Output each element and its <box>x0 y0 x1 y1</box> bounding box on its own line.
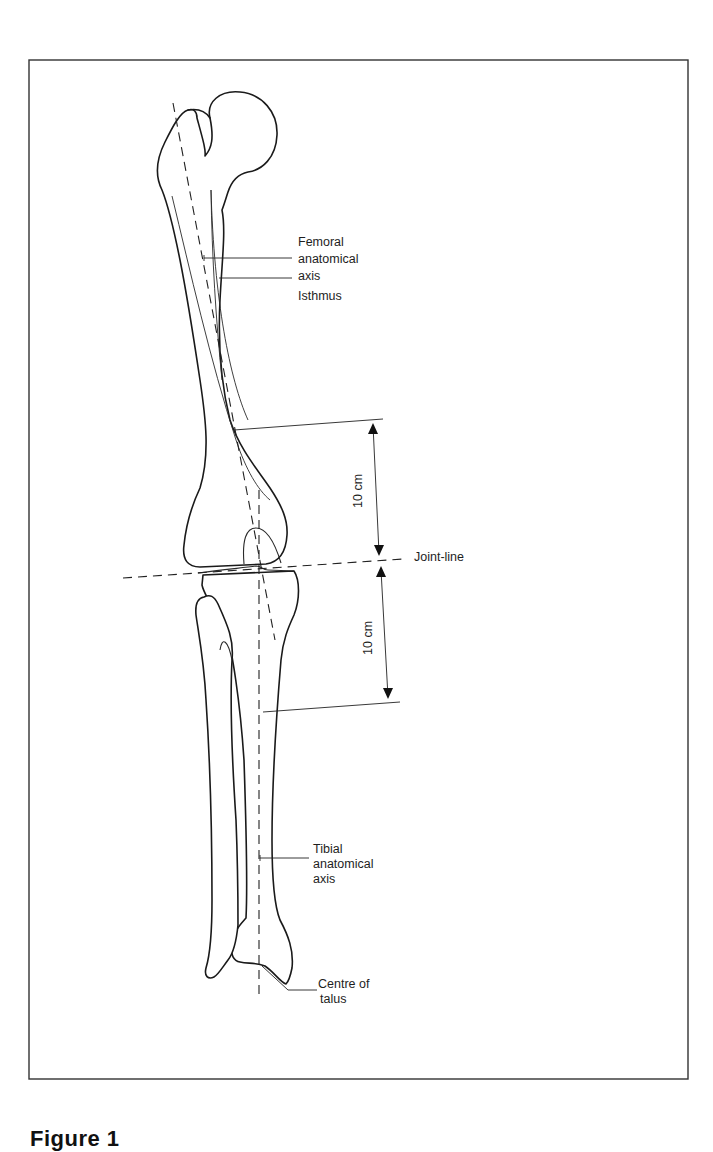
arrow-up-icon <box>368 423 378 434</box>
femoral-axis-label-1: Femoral <box>298 235 344 249</box>
femoral-axis-label-3: axis <box>298 269 320 283</box>
joint-line-label: Joint-line <box>414 550 464 564</box>
femoral-axis-label-2: anatomical <box>298 252 358 266</box>
talus-label-2: talus <box>320 992 346 1006</box>
arrow-up-icon <box>376 566 386 577</box>
tibial-axis-label-3: axis <box>313 872 335 886</box>
figure-caption: Figure 1 <box>30 1126 120 1152</box>
isthmus-label: Isthmus <box>298 289 342 303</box>
lower-dimension-line <box>381 570 388 697</box>
figure-frame <box>29 60 688 1079</box>
lower-distance-label: 10 cm <box>361 621 375 655</box>
upper-dimension-line <box>373 425 379 553</box>
tibial-axis-label-2: anatomical <box>313 857 373 871</box>
fibula <box>196 596 238 978</box>
femur <box>157 92 287 567</box>
arrow-down-icon <box>383 688 393 699</box>
tibial-axis-label-1: Tibial <box>313 842 342 856</box>
upper-reference-line <box>234 419 383 430</box>
upper-distance-label: 10 cm <box>351 474 365 508</box>
arrow-down-icon <box>374 545 384 556</box>
talus-label-1: Centre of <box>318 977 370 991</box>
lower-reference-line <box>263 702 400 712</box>
